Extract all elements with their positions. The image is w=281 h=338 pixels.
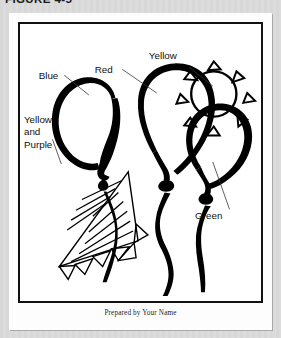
artwork-frame: Yellow Red Blue Yellow and Purple Green — [18, 22, 263, 303]
callout-label-yellow-and-purple-line-1: and — [24, 126, 40, 137]
callout-label-blue: Blue — [39, 70, 59, 81]
callout-label-red: Red — [95, 64, 113, 75]
callout-label-yellow-and-purple-line-0: Yellow — [24, 114, 53, 125]
callout-label-yellow: Yellow — [149, 50, 178, 61]
callout-label-green: Green — [195, 210, 222, 221]
figure-number-heading: FIGURE 4-5 — [5, 0, 72, 5]
callout-label-yellow-and-purple-line-2: Purple — [24, 139, 53, 150]
callout-label-green-line-0: Green — [195, 210, 222, 221]
figure-sheet: Yellow Red Blue Yellow and Purple Green — [9, 13, 272, 330]
balloon-cluster-artwork: Yellow Red Blue Yellow and Purple Green — [20, 24, 261, 301]
page-backdrop: FIGURE 4-5 — [0, 0, 281, 338]
figure-caption: Prepared by Your Name — [9, 309, 272, 317]
green-balloon-shape — [186, 104, 252, 293]
callout-label-red-line-0: Red — [95, 64, 113, 75]
callout-label-blue-line-0: Blue — [39, 70, 59, 81]
callout-label-yellow-line-0: Yellow — [149, 50, 178, 61]
callout-label-yellow-and-purple: Yellow and Purple — [24, 114, 53, 151]
